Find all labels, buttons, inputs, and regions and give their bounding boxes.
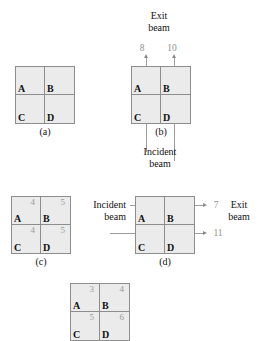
panel-a-cell-B-letter: B (47, 83, 54, 94)
panel-e-cell-A-letter: A (73, 300, 80, 311)
panel-c-label: (c) (11, 256, 71, 268)
panel-e-cell-B-value: 4 (120, 284, 125, 295)
panel-b-beam-right-arrow-top (172, 54, 176, 58)
panel-c-grid: 4 A 5 B 4 C 5 D (11, 196, 71, 254)
panel-d-beam-bottom-arrow-exit (203, 231, 207, 235)
panel-b-exit-value-right: 10 (164, 43, 180, 54)
panel-b-exit-value-left: 8 (136, 43, 148, 54)
panel-e-cell-C: 5 C (71, 312, 100, 340)
panel-e-grid: 3 A 4 B 5 C 6 D (70, 283, 130, 341)
panel-b-cell-A: A (132, 67, 161, 95)
panel-d-incident-beam-line1: Incident (93, 199, 126, 210)
panel-e-cell-C-letter: C (73, 329, 80, 340)
panel-c-cell-C-value: 4 (31, 225, 36, 236)
panel-d-exit-beam-line1: Exit (231, 199, 248, 210)
panel-b-cell-C-letter: C (134, 112, 141, 123)
panel-a-cell-A: A (16, 67, 45, 95)
panel-a-cell-B: B (45, 67, 74, 95)
panel-c-cell-D-letter: D (43, 242, 50, 253)
panel-b-grid: A B C D (131, 66, 191, 124)
panel-a-cell-D-letter: D (47, 112, 54, 123)
panel-e-cell-D-letter: D (102, 329, 109, 340)
panel-b-incident-beam-line2: beam (149, 158, 171, 169)
panel-b-cell-B: B (161, 67, 190, 95)
panel-d-incident-beam-label: Incident beam (78, 199, 126, 222)
panel-b-cell-D: D (161, 95, 190, 123)
panel-d-cell-A: A (136, 197, 165, 225)
panel-a-cell-D: D (45, 95, 74, 123)
panel-b-exit-beam-label: Exit beam (128, 10, 190, 33)
panel-b-cell-A-letter: A (134, 83, 141, 94)
panel-e-cell-B-letter: B (102, 300, 109, 311)
panel-d-exit-value-bottom: 11 (210, 228, 226, 239)
panel-a-cell-A-letter: A (18, 83, 25, 94)
panel-d-incident-beam-line2: beam (104, 211, 126, 222)
panel-d-beam-top-arrow-exit (203, 203, 207, 207)
panel-c-cell-D: 5 D (41, 225, 70, 253)
panel-b-label: (b) (131, 126, 191, 138)
panel-d-cell-D: D (165, 225, 194, 253)
panel-a-cell-C: C (16, 95, 45, 123)
panel-e-cell-A-value: 3 (90, 284, 95, 295)
panel-d-exit-beam-label: Exit beam (215, 199, 263, 222)
panel-c-cell-B: 5 B (41, 197, 70, 225)
panel-c-cell-C: 4 C (12, 225, 41, 253)
panel-e-cell-D: 6 D (100, 312, 129, 340)
panel-a-label: (a) (15, 126, 75, 138)
panel-d-cell-B: B (165, 197, 194, 225)
panel-b-cell-D-letter: D (163, 112, 170, 123)
panel-e-cell-D-value: 6 (120, 312, 125, 323)
panel-a-grid: A B C D (15, 66, 75, 124)
panel-c-cell-A-value: 4 (31, 197, 36, 208)
panel-d-exit-beam-line2: beam (228, 211, 250, 222)
panel-d-cell-C-letter: C (138, 242, 145, 253)
panel-d-cell-C: C (136, 225, 165, 253)
panel-d-label: (d) (135, 256, 195, 268)
panel-c-cell-A: 4 A (12, 197, 41, 225)
panel-b-incident-beam-line1: Incident (144, 146, 177, 157)
panel-d-cell-B-letter: B (167, 213, 174, 224)
panel-c-cell-B-value: 5 (61, 197, 66, 208)
panel-b-cell-C: C (132, 95, 161, 123)
panel-c-cell-A-letter: A (14, 213, 21, 224)
panel-b-exit-beam-line2: beam (148, 22, 170, 33)
panel-e-cell-C-value: 5 (90, 312, 95, 323)
panel-b-beam-left-arrow-top (144, 54, 148, 58)
panel-b-incident-beam-label: Incident beam (122, 146, 198, 169)
panel-b-exit-beam-line1: Exit (151, 10, 168, 21)
panel-d-cell-D-letter: D (167, 242, 174, 253)
panel-a-cell-C-letter: C (18, 112, 25, 123)
panel-d-grid: A B C D (135, 196, 195, 254)
panel-b-cell-B-letter: B (163, 83, 170, 94)
panel-c-cell-B-letter: B (43, 213, 50, 224)
panel-e-cell-B: 4 B (100, 284, 129, 312)
panel-c-cell-C-letter: C (14, 242, 21, 253)
panel-c-cell-D-value: 5 (61, 225, 66, 236)
panel-e-cell-A: 3 A (71, 284, 100, 312)
panel-d-cell-A-letter: A (138, 213, 145, 224)
panel-d-exit-value-top: 7 (210, 200, 222, 211)
